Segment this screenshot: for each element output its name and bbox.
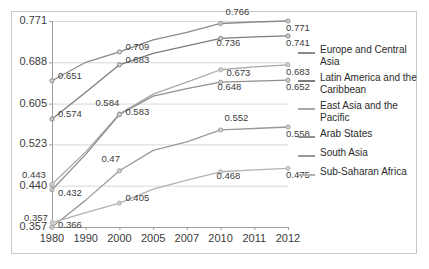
legend-item[interactable]: Europe and Central Asia: [298, 44, 418, 67]
legend-item[interactable]: South Asia: [298, 147, 418, 161]
y-axis-tick-label: 0.605: [2, 97, 47, 109]
legend-line-swatch-icon: [298, 48, 315, 58]
data-point-marker: [117, 50, 121, 54]
y-axis-tick-label: 0.440: [2, 179, 47, 191]
data-point-label: 0.432: [58, 187, 82, 198]
x-axis-tick-label: 2010: [204, 232, 238, 244]
data-point-label: 0.443: [22, 169, 46, 180]
chart-screenshot: 0.7710.6880.6050.5230.4400.3571980199020…: [0, 0, 429, 269]
data-point-label: 0.468: [217, 170, 241, 181]
data-point-marker: [50, 182, 54, 186]
series-line: [52, 65, 288, 184]
data-point-label: 0.736: [217, 37, 241, 48]
data-point-marker: [50, 188, 54, 192]
data-point-marker: [50, 220, 54, 224]
legend-item-label: Latin America and the Caribbean: [320, 72, 418, 95]
data-point-marker: [50, 79, 54, 83]
x-axis-tick-label: 2007: [170, 232, 204, 244]
data-point-label: 0.771: [286, 22, 310, 33]
data-point-label: 0.683: [125, 54, 149, 65]
legend-item[interactable]: East Asia and the Pacific: [298, 100, 418, 123]
series-line: [52, 80, 288, 189]
data-point-marker: [218, 128, 222, 132]
legend-item-label: East Asia and the Pacific: [320, 100, 418, 123]
data-point-label: 0.709: [125, 41, 149, 52]
legend-line-swatch-icon: [298, 170, 315, 180]
data-point-label: 0.583: [125, 106, 149, 117]
legend-item-label: Arab States: [320, 128, 372, 140]
legend-item[interactable]: Sub-Saharan Africa: [298, 166, 418, 180]
data-point-label: 0.651: [58, 70, 82, 81]
x-axis-tick-label: 1980: [35, 232, 69, 244]
data-point-label: 0.552: [225, 112, 249, 123]
data-point-label: 0.766: [226, 6, 250, 17]
data-point-marker: [218, 21, 222, 25]
y-axis-tick-label: 0.688: [2, 55, 47, 67]
data-point-marker: [117, 112, 121, 116]
data-point-label: 0.673: [227, 67, 251, 78]
data-point-marker: [218, 68, 222, 72]
chart-legend: Europe and Central AsiaLatin America and…: [298, 44, 418, 185]
data-point-label: 0.47: [101, 153, 120, 164]
data-point-label: 0.648: [218, 81, 242, 92]
legend-item-label: Sub-Saharan Africa: [320, 166, 407, 178]
legend-line-swatch-icon: [298, 132, 315, 142]
data-point-label: 0.357: [24, 212, 48, 223]
x-axis-tick-label: 2011: [237, 232, 271, 244]
data-point-marker: [117, 201, 121, 205]
legend-line-swatch-icon: [298, 104, 315, 114]
series-line: [52, 21, 288, 81]
data-point-label: 0.405: [125, 192, 149, 203]
x-axis-tick-label: 1990: [69, 232, 103, 244]
series-line: [52, 168, 288, 222]
x-axis-tick-label: 2005: [136, 232, 170, 244]
legend-item-label: Europe and Central Asia: [320, 44, 418, 67]
legend-item[interactable]: Arab States: [298, 128, 418, 142]
x-axis-tick-label: 2012: [271, 232, 305, 244]
legend-item[interactable]: Latin America and the Caribbean: [298, 72, 418, 95]
legend-line-swatch-icon: [298, 76, 315, 86]
y-axis-tick-label: 0.771: [2, 14, 47, 26]
x-axis-tick-label: 2000: [102, 232, 136, 244]
data-point-label: 0.584: [95, 97, 119, 108]
y-axis-tick-label: 0.523: [2, 137, 47, 149]
data-point-marker: [117, 63, 121, 67]
data-point-marker: [50, 117, 54, 121]
data-point-label: 0.574: [58, 108, 82, 119]
data-point-marker: [50, 225, 54, 229]
legend-line-swatch-icon: [298, 151, 315, 161]
legend-item-label: South Asia: [320, 147, 368, 159]
data-point-marker: [117, 169, 121, 173]
series-line: [52, 36, 288, 119]
data-point-label: 0.366: [58, 219, 82, 230]
